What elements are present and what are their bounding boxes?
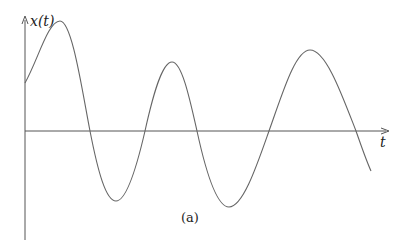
y-axis-label: x(t)	[30, 13, 54, 29]
x-axis-label: t	[380, 134, 386, 150]
signal-diagram: x(t) t (a)	[0, 0, 409, 252]
figure-caption: (a)	[181, 210, 199, 225]
waveform-curve	[25, 21, 371, 207]
